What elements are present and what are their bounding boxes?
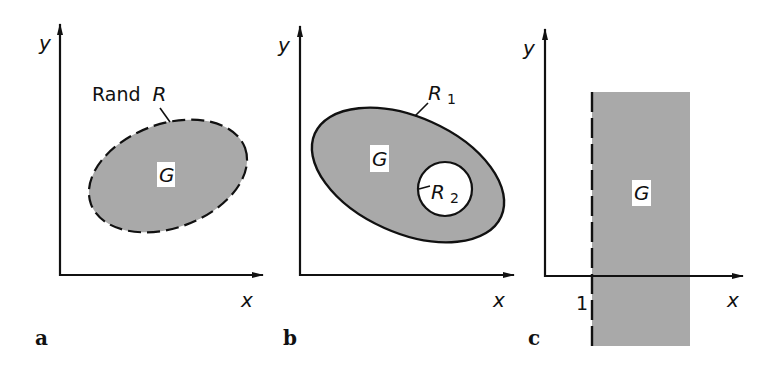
tick-label-one: 1 [576, 292, 588, 314]
region-label: G [372, 147, 388, 171]
region-label: G [159, 163, 175, 187]
panel-a: y x Rand R G a [35, 24, 263, 350]
boundary-label-prefix: Rand [92, 83, 141, 105]
inner-boundary-symbol: R [431, 180, 445, 204]
panel-letter: a [35, 326, 48, 350]
outer-boundary-label: R 1 [428, 81, 456, 107]
boundary-label-symbol: R [153, 82, 167, 106]
outer-boundary-leader [415, 103, 428, 116]
y-axis-label: y [522, 36, 536, 60]
outer-boundary-subscript: 1 [447, 91, 456, 107]
x-axis-label: x [240, 288, 253, 312]
y-axis-label: y [277, 33, 291, 57]
y-axis-label: y [38, 31, 52, 55]
boundary-label: Rand R [92, 82, 166, 106]
panel-letter: b [283, 326, 297, 350]
boundary-leader-line [160, 108, 170, 122]
panel-letter: c [528, 326, 540, 350]
region-label: G [634, 181, 650, 205]
domain-diagram-figure: y x Rand R G a y x R 1 R 2 G b [0, 0, 780, 381]
panel-c: y x 1 G c [522, 29, 743, 350]
outer-boundary-symbol: R [428, 81, 442, 105]
x-axis-label: x [726, 288, 739, 312]
outer-boundary-ellipse [291, 81, 525, 270]
region-g-strip [592, 92, 690, 346]
panel-b: y x R 1 R 2 G b [277, 26, 525, 350]
x-axis-label: x [492, 288, 505, 312]
inner-boundary-subscript: 2 [450, 190, 459, 206]
